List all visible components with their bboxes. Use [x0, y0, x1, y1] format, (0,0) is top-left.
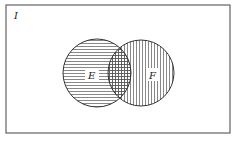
- set-e-label: E: [87, 70, 96, 81]
- universe-label: I: [13, 10, 19, 21]
- set-f-label: F: [148, 70, 157, 81]
- venn-diagram: I E F: [0, 0, 237, 143]
